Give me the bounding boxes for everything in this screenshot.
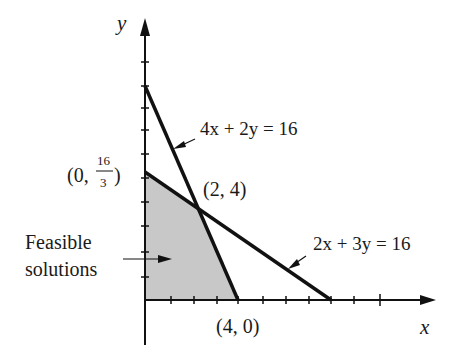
svg-text:16: 16: [97, 153, 111, 168]
x-axis-arrow-icon: [420, 295, 436, 305]
leader-4x-2y: [173, 139, 195, 149]
point-label-y-intercept: (0, 16 3 ): [67, 153, 121, 190]
leader-2x-3y: [288, 256, 306, 269]
svg-text:): ): [114, 164, 121, 187]
leader-arrow-icon: [173, 141, 186, 149]
leader-arrow-icon: [288, 259, 300, 269]
feasible-label-line2: solutions: [25, 258, 97, 280]
y-axis-label: y: [115, 11, 127, 35]
feasible-region-diagram: y x 4x + 2y = 16 2x + 3y = 16 (0, 16 3 )…: [0, 0, 455, 356]
equation-label-2: 2x + 3y = 16: [313, 233, 410, 254]
equation-label-1: 4x + 2y = 16: [200, 118, 297, 139]
y-axis-arrow-icon: [140, 18, 150, 36]
svg-text:(0,: (0,: [67, 164, 89, 187]
x-axis-label: x: [419, 315, 430, 339]
feasible-label-line1: Feasible: [25, 231, 92, 253]
svg-text:3: 3: [100, 175, 107, 190]
point-label-intersection: (2, 4): [203, 178, 246, 201]
point-label-x-intercept: (4, 0): [216, 315, 259, 338]
